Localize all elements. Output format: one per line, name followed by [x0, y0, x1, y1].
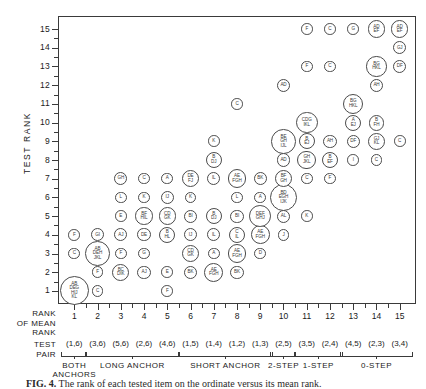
- x-tick-label: 14: [366, 312, 386, 321]
- y-tick-label: 4: [32, 230, 50, 239]
- x-axis-title-line: OF MEAN: [0, 319, 56, 329]
- data-point: L: [231, 192, 243, 204]
- x-tick-label: 15: [390, 312, 410, 321]
- data-point: C: [394, 135, 406, 147]
- x-tick-label: 4: [134, 312, 154, 321]
- group-bracket: [85, 352, 181, 357]
- y-tick-label: 9: [32, 137, 50, 146]
- x-tick-minor: [156, 304, 157, 308]
- x-tick-major: [167, 304, 168, 310]
- x-axis-title: RANKOF MEANRANK: [0, 309, 56, 338]
- data-point-label: F: [73, 233, 76, 238]
- data-point-label: BCDIK: [117, 268, 124, 277]
- data-point: C: [92, 285, 104, 297]
- data-point: ADEF: [391, 20, 408, 37]
- group-bracket: [61, 352, 87, 357]
- data-point-label: ADEF: [397, 25, 403, 34]
- data-point: BEJ: [299, 133, 315, 149]
- data-point: K: [138, 192, 150, 204]
- data-point-label: IL: [212, 176, 216, 181]
- data-point-label: BDEGHIJK: [279, 191, 289, 205]
- x-tick-major: [237, 304, 238, 310]
- data-point: BK: [230, 266, 243, 279]
- x-tick-label: 3: [111, 312, 131, 321]
- data-point-label: AEFGH: [209, 268, 218, 277]
- data-point-label: GHJKL: [303, 155, 311, 164]
- data-point: C: [324, 23, 336, 35]
- y-tick-minor: [54, 95, 59, 96]
- data-point-label: AEFGH: [232, 249, 241, 258]
- data-point: C: [371, 154, 383, 166]
- y-tick-label: 5: [32, 212, 50, 221]
- data-point: BFHIL: [135, 207, 152, 224]
- data-point: DE: [137, 228, 150, 241]
- data-point: C: [231, 98, 243, 110]
- x-tick-label: 6: [181, 312, 201, 321]
- x-tick-minor: [342, 304, 343, 308]
- data-point-label: BEF: [327, 155, 333, 164]
- data-point-label: DEFJ: [187, 174, 193, 183]
- data-point-label: IL: [212, 233, 216, 238]
- data-point-label: AEFGH: [232, 174, 241, 183]
- caption-figure-number: FIG. 4.: [26, 378, 56, 389]
- data-point-label: I: [353, 158, 354, 163]
- test-pair-title-line: TEST: [0, 340, 56, 350]
- y-tick-label: 7: [32, 174, 50, 183]
- data-point-label: L: [120, 195, 122, 200]
- data-point-label: AEJ: [351, 118, 356, 127]
- data-point: C: [324, 61, 336, 73]
- data-point-label: C: [305, 176, 308, 181]
- data-point: BFH: [369, 115, 385, 131]
- data-point-label: C: [328, 64, 331, 69]
- data-point-label: E: [119, 214, 122, 219]
- x-tick-major: [260, 304, 261, 310]
- x-tick-minor: [225, 304, 226, 308]
- y-tick-label: 13: [32, 62, 50, 71]
- x-tick-minor: [109, 304, 110, 308]
- data-point: ABDEHJKL: [85, 241, 110, 266]
- x-tick-label: 5: [157, 312, 177, 321]
- data-point-label: C: [375, 158, 378, 163]
- data-point: I: [347, 154, 359, 166]
- x-tick-minor: [132, 304, 133, 308]
- data-point-label: ABDEGHIJKL: [69, 282, 79, 300]
- x-tick-label: 10: [273, 312, 293, 321]
- group-label: LONG ANCHOR: [87, 361, 177, 370]
- data-point: E: [115, 210, 127, 222]
- data-point: BEF: [322, 152, 338, 168]
- data-point-label: AD: [280, 158, 286, 163]
- x-tick-label: 11: [297, 312, 317, 321]
- data-point: AEJ: [345, 115, 361, 131]
- x-tick-label: 2: [88, 312, 108, 321]
- data-point: CDGIKL: [296, 112, 318, 134]
- data-point-label: AEFGH: [256, 230, 265, 239]
- data-point-label: DE: [141, 233, 147, 238]
- data-point-label: A: [166, 176, 169, 181]
- figure-scatter-plot: TEST RANK 123456789101112131415 12345678…: [0, 0, 426, 389]
- data-point: BEGHIJL: [271, 129, 296, 154]
- x-tick-label: 8: [227, 312, 247, 321]
- y-tick-major: [52, 235, 59, 236]
- data-point-label: BGHKL: [372, 62, 381, 71]
- x-tick-major: [400, 304, 401, 310]
- data-point: AL: [277, 210, 290, 223]
- data-point-label: J: [282, 233, 284, 238]
- data-point-label: C: [398, 139, 401, 144]
- data-point: A: [254, 192, 266, 204]
- data-point: K: [208, 135, 220, 147]
- x-tick-major: [121, 304, 122, 310]
- data-point: AD: [277, 79, 290, 92]
- data-point-label: BGHKL: [349, 99, 358, 108]
- group-bracket: [178, 352, 274, 357]
- figure-caption: FIG. 4. The rank of each tested item on …: [26, 378, 418, 389]
- data-point-label: F: [96, 270, 99, 275]
- y-tick-label: 11: [32, 99, 50, 108]
- data-point-label: BHL: [164, 230, 170, 239]
- x-tick-minor: [202, 304, 203, 308]
- data-point: AD: [277, 153, 290, 166]
- data-point: DEFGHJ: [249, 205, 271, 227]
- data-point: AEFGH: [251, 225, 270, 244]
- group-bracket: [270, 352, 296, 357]
- test-pair-row-title: TESTPAIR: [0, 340, 56, 359]
- x-tick-minor: [388, 304, 389, 308]
